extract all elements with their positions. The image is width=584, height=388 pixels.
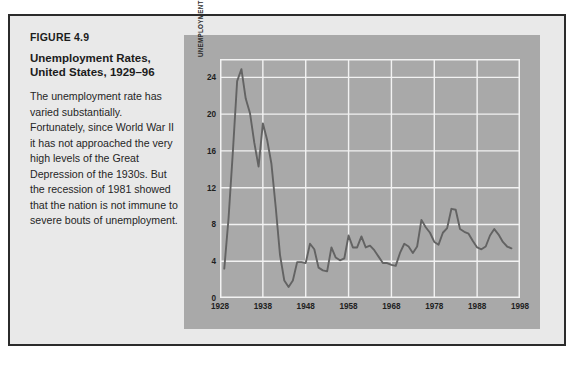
x-axis-tick-label: 1938 (254, 302, 272, 311)
x-axis-tick-label: 1958 (339, 302, 357, 311)
y-axis-tick-label: 8 (211, 220, 216, 229)
x-axis-tick-label: 1928 (211, 302, 229, 311)
chart-plot-area: 04812162024 1928193819481958196819781988… (220, 59, 520, 298)
figure-description: The unemployment rate has varied substan… (30, 89, 180, 229)
y-axis-title-wrapper: UNEMPLOYMENT AS A PERCENT OF CIVILIAN LA… (196, 51, 208, 301)
unemployment-line-chart (220, 59, 520, 298)
y-axis-tick-label: 20 (207, 110, 216, 119)
y-axis-tick-label: 16 (207, 146, 216, 155)
x-axis-tick-label: 1978 (425, 302, 443, 311)
chart-panel: UNEMPLOYMENT AS A PERCENT OF CIVILIAN LA… (184, 35, 540, 329)
figure-root: FIGURE 4.9 Unemployment Rates, United St… (0, 0, 584, 388)
chart-gridlines (220, 59, 520, 298)
figure-title-line-2: United States, 1929–96 (30, 66, 155, 78)
figure-title: Unemployment Rates, United States, 1929–… (30, 51, 180, 80)
figure-number: FIGURE 4.9 (30, 32, 180, 44)
figure-caption-column: FIGURE 4.9 Unemployment Rates, United St… (30, 32, 180, 229)
x-axis-tick-label: 1998 (511, 302, 529, 311)
unemployment-series-line (224, 69, 511, 287)
y-axis-tick-label: 4 (211, 257, 216, 266)
x-axis-tick-label: 1968 (382, 302, 400, 311)
x-axis-tick-label: 1988 (468, 302, 486, 311)
y-axis-title: UNEMPLOYMENT AS A PERCENT OF CIVILIAN LA… (195, 0, 207, 57)
figure-box: FIGURE 4.9 Unemployment Rates, United St… (8, 14, 566, 346)
y-axis-tick-label: 24 (207, 73, 216, 82)
figure-title-line-1: Unemployment Rates, (30, 52, 151, 64)
y-axis-tick-label: 12 (207, 183, 216, 192)
x-axis-tick-label: 1948 (297, 302, 315, 311)
